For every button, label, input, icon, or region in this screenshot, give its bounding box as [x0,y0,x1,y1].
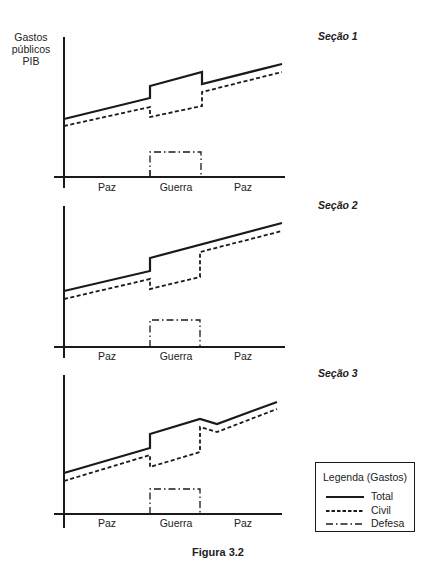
section-title-2: Seção 2 [318,199,358,211]
panel-2 [54,206,285,358]
dashdot-line-icon [326,522,366,526]
y-label-line-3: PIB [0,55,62,67]
panel-3 [54,375,282,528]
legend-label-civil: Civil [371,504,391,516]
civil-line [64,409,277,481]
y-axis-label: Gastos públicos PIB [0,31,62,67]
legend-item-civil: Civil [326,504,411,516]
solid-line-icon [326,495,366,499]
total-line [64,64,282,119]
legend-label-defesa: Defesa [371,517,404,529]
x-label-paz-2: Paz [213,350,273,362]
x-label-paz-1: Paz [77,517,137,529]
x-label-guerra: Guerra [146,350,206,362]
total-line [64,402,277,473]
x-label-guerra: Guerra [146,517,206,529]
figure-caption: Figura 3.2 [0,546,436,558]
defense-line [150,320,200,347]
x-label-paz-1: Paz [77,181,137,193]
legend-item-defesa: Defesa [326,517,411,529]
x-label-paz-2: Paz [213,517,273,529]
section-title-1: Seção 1 [318,30,358,42]
defense-line [150,489,200,514]
legend-box: Legenda (Gastos) Total Civil Defesa [315,462,415,532]
legend-label-total: Total [371,490,393,502]
x-label-guerra: Guerra [146,181,206,193]
legend-item-total: Total [326,490,411,502]
x-label-paz-1: Paz [77,350,137,362]
legend-title: Legenda (Gastos) [316,471,414,483]
defense-line [150,152,201,177]
y-label-line-2: públicos [0,43,62,55]
total-line [64,223,282,291]
dashed-line-icon [326,509,366,513]
panel-1 [54,37,285,188]
civil-line [64,231,282,299]
section-title-3: Seção 3 [318,367,358,379]
y-label-line-1: Gastos [0,31,62,43]
x-label-paz-2: Paz [213,181,273,193]
